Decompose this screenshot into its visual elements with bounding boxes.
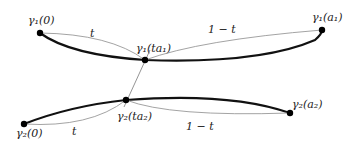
point-gamma1-mid xyxy=(142,57,148,63)
label-1-minus-t-top: 1 − t xyxy=(208,23,236,36)
label-t-bottom: t xyxy=(72,125,77,138)
label-t-top: t xyxy=(90,27,95,40)
gamma2-curve xyxy=(24,98,290,124)
label-gamma2-start: γ₂(0) xyxy=(16,127,43,140)
gamma1-curve xyxy=(40,30,322,61)
label-gamma2-end: γ₂(a₂) xyxy=(292,98,323,111)
label-gamma2-mid: γ₂(ta₂) xyxy=(117,110,152,123)
point-gamma1-start xyxy=(37,30,43,36)
label-gamma1-mid: γ₁(ta₁) xyxy=(136,42,171,55)
point-gamma1-end xyxy=(319,27,325,33)
gamma2-thin-arc-t xyxy=(24,100,126,125)
geodesic-diagram: γ₁(0) γ₁(a₁) γ₁(ta₁) t 1 − t γ₂(0) γ₂(a₂… xyxy=(0,0,364,142)
label-gamma1-start: γ₁(0) xyxy=(28,14,55,27)
point-gamma2-mid xyxy=(123,97,129,103)
label-gamma1-end: γ₁(a₁) xyxy=(312,11,343,24)
label-1-minus-t-bottom: 1 − t xyxy=(186,120,214,133)
